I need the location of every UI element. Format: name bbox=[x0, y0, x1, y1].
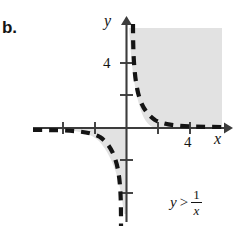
y-axis-arrowhead bbox=[121, 16, 132, 25]
x-axis-arrowhead bbox=[224, 123, 233, 134]
inequality-relation: > bbox=[179, 195, 189, 210]
inequality-lhs: y bbox=[170, 195, 177, 210]
x-tick-label-4: 4 bbox=[184, 135, 192, 150]
graph-figure: b. y x 4 4 y > 1 x bbox=[0, 0, 235, 228]
y-axis-label: y bbox=[104, 13, 111, 29]
fraction-numerator: 1 bbox=[191, 188, 202, 202]
fraction-denominator: x bbox=[192, 203, 202, 217]
inequality-annotation: y > 1 x bbox=[170, 188, 202, 217]
y-tick-label-4: 4 bbox=[103, 56, 111, 71]
x-axis-label: x bbox=[214, 131, 221, 147]
inequality-fraction: 1 x bbox=[191, 188, 202, 217]
part-label: b. bbox=[2, 18, 17, 38]
shade-lower-left bbox=[33, 128, 126, 214]
